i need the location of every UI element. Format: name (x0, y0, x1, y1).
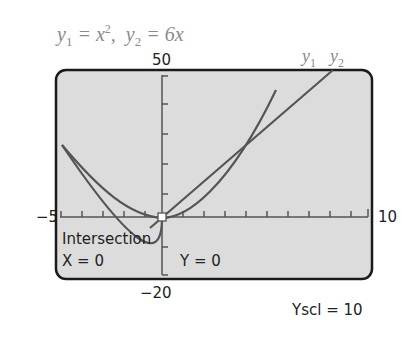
readout-title: Intersection (62, 230, 151, 248)
calculator-screen (0, 0, 417, 337)
intersection-cursor-icon (158, 213, 166, 221)
readout-x: X = 0 (62, 252, 104, 270)
readout-y: Y = 0 (180, 252, 221, 270)
